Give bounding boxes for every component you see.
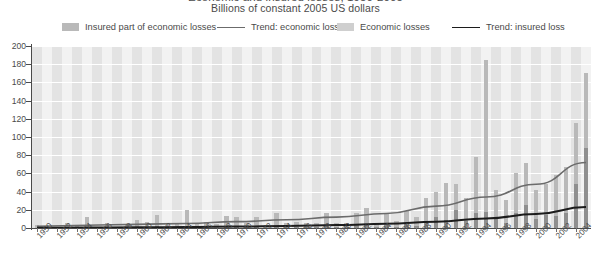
y-tick [26,228,31,229]
y-tick-label: 0 [0,224,26,232]
legend-label: Trend: insured loss [486,22,565,32]
y-axis-line [31,44,32,230]
legend-line-icon [217,27,245,28]
y-tick-label: 160 [0,78,26,86]
legend-item-2[interactable]: Economic losses [337,20,430,34]
y-tick [26,46,31,47]
legend-item-3[interactable]: Trend: insured loss [452,20,565,34]
legend-label: Economic losses [360,22,430,32]
legend-line-icon [452,27,480,28]
legend-item-1[interactable]: Trend: economic loss [217,20,339,34]
y-tick [26,192,31,193]
y-tick-label: 140 [0,97,26,105]
y-tick [26,155,31,156]
legend-label: Insured part of economic losses [85,22,216,32]
y-tick-label: 20 [0,206,26,214]
y-tick-label: 80 [0,151,26,159]
y-tick-label: 60 [0,169,26,177]
legend-swatch-icon [337,23,354,31]
legend-swatch-icon [62,23,79,31]
y-tick [26,64,31,65]
y-tick-label: 40 [0,188,26,196]
y-tick [26,101,31,102]
y-tick [26,137,31,138]
chart-legend: Insured part of economic lossesTrend: ec… [0,20,591,34]
y-tick-label: 120 [0,115,26,123]
y-tick [26,119,31,120]
y-tick [26,82,31,83]
y-tick [26,210,31,211]
legend-label: Trend: economic loss [251,22,339,32]
legend-item-0[interactable]: Insured part of economic losses [62,20,216,34]
y-tick-label: 180 [0,60,26,68]
chart-subtitle: Billions of constant 2005 US dollars [0,2,591,14]
y-tick-label: 200 [0,42,26,50]
y-tick-label: 100 [0,133,26,141]
y-tick [26,173,31,174]
trend-lines-overlay [32,46,591,228]
